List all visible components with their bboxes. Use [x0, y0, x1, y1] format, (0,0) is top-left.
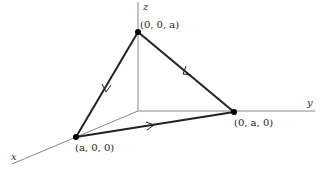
- point-left: [73, 134, 79, 140]
- y-axis-label: y: [306, 97, 313, 108]
- edge-top-to-left: [76, 32, 138, 137]
- x-axis-label: x: [11, 151, 17, 162]
- point-right: [231, 109, 237, 115]
- edge-left-to-right: [76, 112, 234, 137]
- edge-right-to-top: [138, 32, 234, 112]
- point-top-label: (0, 0, a): [140, 19, 179, 30]
- point-right-label: (0, a, 0): [234, 117, 273, 128]
- point-left-label: (a, 0, 0): [75, 142, 114, 153]
- triangle-diagram: z y x (0, 0, a) (a, 0, 0) (0, a, 0): [0, 0, 320, 169]
- z-axis-label: z: [142, 1, 149, 12]
